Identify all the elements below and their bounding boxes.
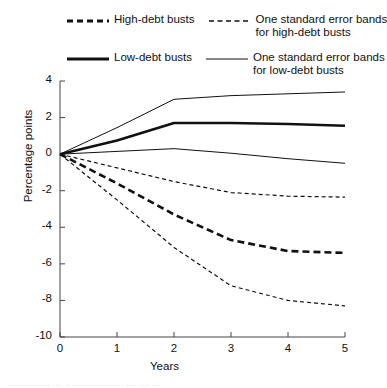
chart-axes [60, 81, 345, 337]
series-line [60, 123, 345, 154]
x-tick-label: 3 [221, 342, 241, 354]
x-tick-label: 5 [335, 342, 355, 354]
series-line [60, 149, 345, 164]
y-tick-label: -4 [28, 219, 52, 231]
y-tick-label: 4 [28, 73, 52, 85]
y-tick-label: -8 [28, 292, 52, 304]
y-tick-label: 0 [28, 146, 52, 158]
y-tick-label: -6 [28, 256, 52, 268]
x-tick-label: 2 [164, 342, 184, 354]
chart-series [60, 92, 345, 306]
x-tick-label: 1 [107, 342, 127, 354]
series-line [60, 154, 345, 253]
caption-sliver: ................ .... ..................… [8, 379, 208, 386]
y-tick-label: -2 [28, 183, 52, 195]
y-tick-label: -10 [28, 329, 52, 341]
x-axis-title: Years [150, 360, 179, 372]
x-tick-label: 4 [278, 342, 298, 354]
y-tick-label: 2 [28, 110, 52, 122]
x-tick-label: 0 [50, 342, 70, 354]
